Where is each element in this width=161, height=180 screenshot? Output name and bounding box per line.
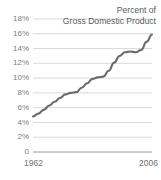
y-axis-tick-label: 4% — [17, 118, 29, 127]
chart-title: Percent ofGross Domestic Product — [63, 5, 157, 26]
x-axis-tick-label: 2006 — [139, 158, 158, 168]
y-axis-tick-label: 16% — [13, 29, 29, 38]
x-axis-tick-labels: 19622006 — [24, 158, 158, 168]
y-axis-tick-label: 6% — [17, 103, 29, 112]
chart-title-line: Percent of — [117, 5, 157, 15]
y-axis-tick-label: 8% — [17, 88, 29, 97]
gridlines — [33, 19, 152, 152]
chart-container: 18%16%14%12%10%8%6%4%2%0 19622006 Percen… — [0, 0, 161, 180]
y-axis-tick-label: 10% — [13, 73, 29, 82]
y-axis-tick-label: 0 — [25, 147, 30, 156]
x-axis-tick-label: 1962 — [24, 158, 43, 168]
y-axis-tick-labels: 18%16%14%12%10%8%6%4%2%0 — [13, 14, 30, 156]
chart-title-line: Gross Domestic Product — [63, 16, 157, 26]
y-axis-tick-label: 12% — [13, 58, 29, 67]
y-axis-tick-label: 18% — [13, 14, 29, 23]
y-axis-tick-label: 14% — [13, 44, 29, 53]
data-series-line — [33, 35, 152, 117]
line-chart: 18%16%14%12%10%8%6%4%2%0 19622006 Percen… — [0, 0, 161, 180]
y-axis-tick-label: 2% — [17, 132, 29, 141]
